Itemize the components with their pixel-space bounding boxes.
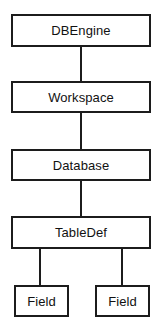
connector-dbengine-to-workspace (80, 47, 82, 81)
connector-database-to-tabledef (80, 181, 82, 216)
object-hierarchy-diagram: DBEngine Workspace Database TableDef Fie… (0, 0, 163, 331)
node-workspace-label: Workspace (48, 91, 114, 104)
node-dbengine-label: DBEngine (51, 24, 110, 37)
connector-tabledef-to-field-left (39, 249, 41, 285)
node-field-right[interactable]: Field (95, 285, 150, 317)
node-workspace[interactable]: Workspace (11, 81, 151, 113)
node-tabledef[interactable]: TableDef (11, 216, 151, 249)
connector-workspace-to-database (80, 113, 82, 149)
node-field-left-label: Field (27, 295, 56, 308)
node-dbengine[interactable]: DBEngine (11, 14, 151, 47)
connector-tabledef-to-field-right (121, 249, 123, 285)
node-tabledef-label: TableDef (55, 226, 107, 239)
node-database-label: Database (53, 159, 109, 172)
node-field-right-label: Field (108, 295, 137, 308)
node-field-left[interactable]: Field (14, 285, 69, 317)
node-database[interactable]: Database (11, 149, 151, 181)
